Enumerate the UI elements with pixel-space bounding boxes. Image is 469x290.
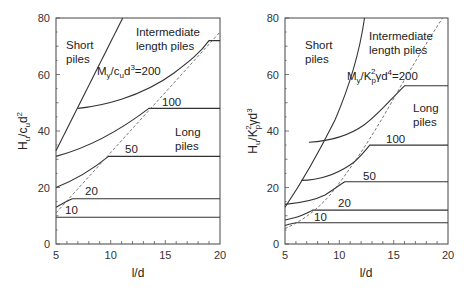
left-xtick-label: 15 [159,249,171,261]
right-curve-10 [285,223,448,226]
svg-text:Hu/cud2: Hu/cud2 [15,111,32,150]
left-y-axis-label: Hu/cud2 [15,111,32,150]
left-curve-label-50: 50 [125,143,138,155]
figure: 0 20 40 60 80 5 10 15 20 l/d Hu/cud2 Sho… [0,0,469,290]
right-xtick-label: 10 [333,249,345,261]
left-xtick-label: 20 [214,249,226,261]
left-intermediate-label: Intermediatelength piles [136,26,200,52]
right-ytick-label: 0 [273,238,279,250]
right-x-axis-label: l/d [360,266,373,280]
right-curve-label-100: 100 [386,133,405,145]
left-x-ticks [67,240,209,244]
right-xtick-label: 15 [388,249,400,261]
right-y-axis-label: Hu/Kp2γd3 [244,108,262,154]
left-curve-label-10: 10 [65,204,78,216]
right-curve-label-20: 20 [338,197,351,209]
right-curve-50 [285,182,448,205]
right-xtick-label: 20 [442,249,454,261]
left-x-axis-label: l/d [132,266,145,280]
left-xtick-label: 5 [53,249,59,261]
left-ytick-label: 60 [38,69,50,81]
right-long-piles-label: Longpiles [413,102,439,128]
left-chart: 0 20 40 60 80 5 10 15 20 l/d Hu/cud2 Sho… [15,12,226,280]
right-curve-label-50: 50 [363,170,376,182]
left-short-piles-label: Shortpiles [66,39,94,65]
right-my-200-label: My/Kp2γd4=200 [347,67,418,85]
right-ytick-label: 40 [267,125,279,137]
left-short-pile-boundary [56,18,123,151]
right-curve-20 [285,210,448,220]
right-ytick-label: 60 [267,69,279,81]
right-xtick-label: 5 [282,249,288,261]
left-xtick-label: 10 [105,249,117,261]
left-ytick-label: 40 [38,125,50,137]
right-y-ticks [285,18,289,244]
left-curve-label-100: 100 [162,96,181,108]
left-curve-50 [56,156,220,187]
left-curve-20 [56,199,220,208]
left-ytick-label: 0 [44,238,50,250]
right-ytick-label: 80 [267,12,279,24]
left-ytick-label: 20 [38,182,50,194]
right-x-ticks [296,240,437,244]
left-curve-label-20: 20 [85,185,98,197]
right-chart: 0 20 40 60 80 5 10 15 20 l/d Hu/Kp2γd3 S… [244,12,454,280]
right-ytick-label: 20 [267,182,279,194]
right-short-piles-label: Shortpiles [305,39,333,65]
right-intermediate-label: Intermediatelength piles [369,30,433,56]
left-my-200-label: My/cud3=200 [97,63,161,80]
left-long-piles-label: Longpiles [175,126,201,152]
right-curve-label-10: 10 [314,211,327,223]
svg-text:Hu/Kp2γd3: Hu/Kp2γd3 [244,108,262,154]
left-y-ticks [56,18,60,244]
right-curve-200 [309,86,448,143]
left-ytick-label: 80 [38,12,50,24]
